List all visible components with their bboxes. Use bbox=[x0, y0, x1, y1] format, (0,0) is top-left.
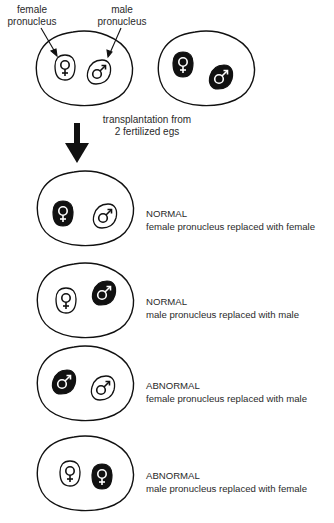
pointer-arrow-female bbox=[41, 28, 57, 56]
egg-source-1 bbox=[36, 31, 132, 105]
male-pronucleus-filled-icon bbox=[209, 65, 232, 89]
result-description-2: male pronucleus replaced with male bbox=[146, 308, 299, 321]
result-label-2: NORMAL male pronucleus replaced with mal… bbox=[146, 295, 299, 321]
result-4-left-female-outline-icon bbox=[60, 461, 80, 486]
result-status-2: NORMAL bbox=[146, 295, 299, 308]
result-label-3: ABNORMAL female pronucleus replaced with… bbox=[146, 379, 307, 405]
egg-result-3 bbox=[37, 346, 133, 420]
result-status-1: NORMAL bbox=[146, 207, 315, 220]
result-status-3: ABNORMAL bbox=[146, 379, 307, 392]
result-1-left-female-filled-icon bbox=[53, 201, 73, 226]
result-4-right-female-filled-icon bbox=[92, 464, 112, 489]
egg-source-2 bbox=[158, 31, 254, 105]
result-label-4: ABNORMAL male pronucleus replaced with f… bbox=[146, 469, 307, 495]
result-description-1: female pronucleus replaced with female bbox=[146, 220, 315, 233]
down-arrow-icon bbox=[65, 123, 89, 163]
egg-result-2 bbox=[37, 263, 133, 337]
result-3-left-male-filled-icon bbox=[52, 370, 75, 394]
result-2-right-male-filled-icon bbox=[92, 281, 115, 305]
result-description-3: female pronucleus replaced with male bbox=[146, 392, 307, 405]
result-2-left-female-outline-icon bbox=[56, 288, 76, 313]
female-pronucleus-outline-icon bbox=[55, 55, 75, 80]
result-label-1: NORMAL female pronucleus replaced with f… bbox=[146, 207, 315, 233]
egg-result-1 bbox=[37, 171, 133, 245]
result-status-4: ABNORMAL bbox=[146, 469, 307, 482]
pronuclear-transplant-diagram bbox=[0, 0, 334, 523]
result-description-4: male pronucleus replaced with female bbox=[146, 482, 307, 495]
result-3-right-male-outline-icon bbox=[91, 376, 114, 400]
male-pronucleus-outline-icon bbox=[87, 60, 110, 84]
egg-result-4 bbox=[37, 436, 133, 510]
female-pronucleus-filled-icon bbox=[173, 52, 193, 77]
result-1-right-male-outline-icon bbox=[93, 204, 116, 228]
